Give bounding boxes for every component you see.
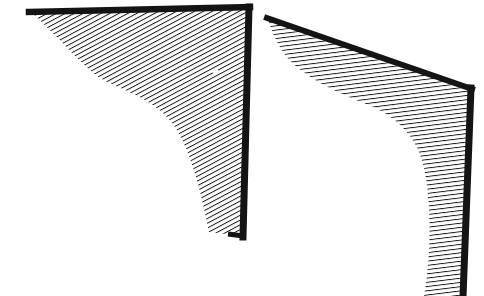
left-figure-hatch-fill bbox=[30, 7, 249, 236]
left-hatched-corner-figure bbox=[29, 7, 250, 237]
right-hatched-corner-figure bbox=[267, 18, 472, 296]
left-figure-bottom-edge bbox=[228, 234, 243, 236]
diagram-canvas: Hatched Corner Fillet Diagram bbox=[0, 0, 484, 296]
right-figure-hatch-fill bbox=[268, 19, 471, 296]
left-figure-scan-speck bbox=[212, 69, 218, 73]
